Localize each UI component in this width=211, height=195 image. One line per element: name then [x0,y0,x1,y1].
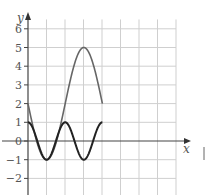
y-axis-label: y [16,11,24,25]
y-tick-label: 2 [15,98,22,111]
y-tick-label: 0 [15,135,22,148]
y-tick-label: −1 [6,154,22,167]
y-tick-label: −2 [6,172,22,185]
y-tick-label: 5 [15,42,22,55]
chart: 6543210−1−2 x y [0,0,211,195]
grid [28,19,176,195]
y-tick-labels: 6543210−1−2 [6,23,28,186]
y-tick-label: 1 [15,116,22,129]
x-axis-label: x [183,142,190,156]
y-tick-label: 4 [15,60,22,73]
y-tick-label: 3 [15,79,22,92]
